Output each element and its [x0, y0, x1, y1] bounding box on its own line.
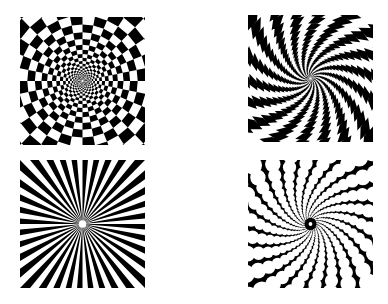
radial-checkerboard-pattern — [20, 17, 145, 145]
radial-starburst-pattern — [20, 160, 145, 288]
radial-dot-pattern — [248, 160, 373, 288]
spiral-checkerboard-pattern — [248, 15, 373, 142]
